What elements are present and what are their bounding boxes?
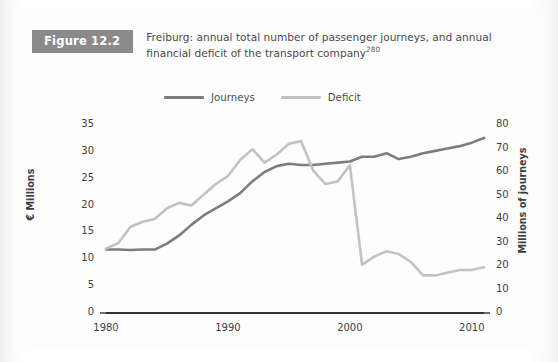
left-tick-15: 15 [68,225,94,236]
left-tick-20: 20 [68,199,94,210]
series-line-deficit [106,141,484,275]
right-tick-70: 70 [496,142,522,153]
x-tick-2010: 2010 [447,322,497,333]
right-tick-0: 0 [496,306,522,317]
figure-container: Figure 12.2 Freiburg: annual total numbe… [0,0,558,362]
x-tick-1990: 1990 [203,322,253,333]
series-line-journeys [106,138,484,250]
figure-card: Figure 12.2 Freiburg: annual total numbe… [14,13,543,349]
left-tick-30: 30 [68,145,94,156]
chart-plot-area: € Millions Millions of journeys 05101520… [14,13,543,349]
right-tick-10: 10 [496,283,522,294]
series-layer [106,138,484,275]
right-tick-60: 60 [496,165,522,176]
left-axis-title: € Millions [25,155,36,235]
x-tick-1980: 1980 [81,322,131,333]
left-tick-5: 5 [68,279,94,290]
right-tick-40: 40 [496,212,522,223]
right-tick-80: 80 [496,118,522,129]
x-tick-2000: 2000 [325,322,375,333]
right-tick-50: 50 [496,189,522,200]
left-tick-35: 35 [68,118,94,129]
left-tick-25: 25 [68,172,94,183]
left-tick-10: 10 [68,252,94,263]
left-tick-0: 0 [68,306,94,317]
right-tick-20: 20 [496,259,522,270]
right-tick-30: 30 [496,236,522,247]
